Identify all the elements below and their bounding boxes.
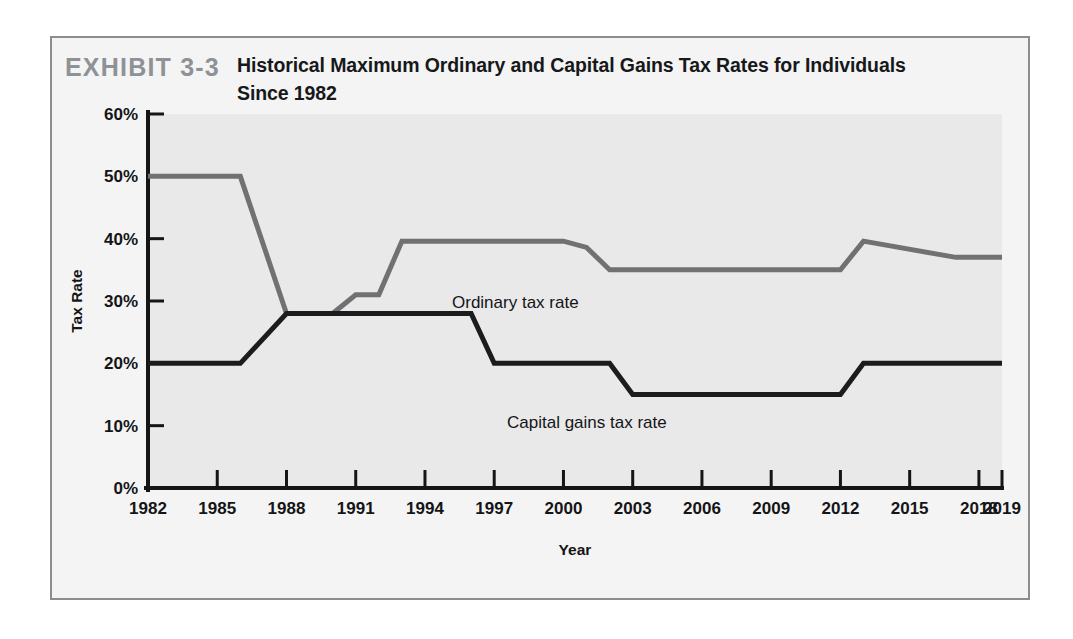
y-axis-tick-label: 0% [113,479,138,498]
y-axis-tick-label: 20% [104,354,138,373]
x-axis-tick-label: 2006 [683,499,721,518]
x-axis-tick-label: 2019 [983,499,1021,518]
capital-gains-tax-rate-annotation: Capital gains tax rate [507,413,667,432]
x-axis-tick-label: 1997 [475,499,513,518]
x-axis-tick-label: 1991 [337,499,375,518]
y-axis-title: Tax Rate [68,269,85,333]
y-axis-tick-label: 30% [104,292,138,311]
ordinary-tax-rate-annotation: Ordinary tax rate [452,293,579,312]
x-axis-title: Year [559,541,592,558]
y-axis-tick-label: 10% [104,417,138,436]
x-axis-tick-label: 2012 [822,499,860,518]
chart-plot-container: 0%10%20%30%40%50%60% 1982198519881991199… [52,108,1028,602]
x-axis-tick-label: 1982 [129,499,167,518]
y-axis-tick-labels: 0%10%20%30%40%50%60% [104,108,138,498]
x-axis-tick-label: 2000 [545,499,583,518]
exhibit-frame: EXHIBIT 3-3 Historical Maximum Ordinary … [50,36,1030,600]
x-axis-tick-label: 1985 [198,499,236,518]
x-axis-tick-label: 2009 [752,499,790,518]
exhibit-title: Historical Maximum Ordinary and Capital … [237,52,957,107]
x-axis-tick-label: 2015 [891,499,929,518]
x-axis-tick-label: 1994 [406,499,444,518]
y-axis-tick-label: 50% [104,167,138,186]
exhibit-number-label: EXHIBIT 3-3 [65,53,220,82]
y-axis-tick-label: 40% [104,230,138,249]
x-axis-tick-label: 2003 [614,499,652,518]
x-axis-tick-labels: 1982198519881991199419972000200320062009… [129,499,1021,518]
tax-rate-line-chart: 0%10%20%30%40%50%60% 1982198519881991199… [52,108,1032,602]
y-axis-tick-label: 60% [104,108,138,124]
x-axis-tick-label: 1988 [268,499,306,518]
